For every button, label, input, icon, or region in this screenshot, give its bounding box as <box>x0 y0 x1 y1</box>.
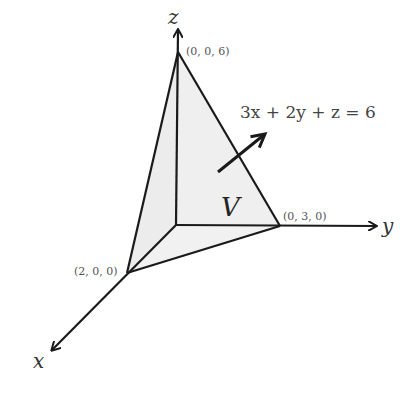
y-axis-label: y <box>381 214 394 238</box>
y-axis <box>176 225 376 226</box>
plane-equation: 3x + 2y + z = 6 <box>240 102 376 122</box>
vertex-label-y: (0, 3, 0) <box>283 210 327 223</box>
z-axis-label: z <box>167 5 179 29</box>
vertex-label-z: (0, 0, 6) <box>186 45 230 58</box>
x-axis-label: x <box>33 349 44 373</box>
x-axis <box>52 225 176 350</box>
region-label: V <box>221 192 242 222</box>
tetrahedron-diagram: z y x (0, 0, 6) (0, 3, 0) (2, 0, 0) 3x +… <box>0 0 420 398</box>
vertex-label-x: (2, 0, 0) <box>74 265 118 278</box>
